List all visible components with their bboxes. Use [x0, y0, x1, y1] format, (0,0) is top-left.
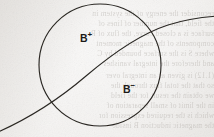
region-label-b-minus: B− [123, 82, 135, 94]
region-label-b-plus-base: B [80, 32, 88, 44]
region-label-b-minus-base: B [123, 83, 131, 95]
figure-canvas: reconsider the energy of the system in t… [0, 0, 214, 137]
region-label-b-plus: B+ [80, 31, 92, 43]
region-label-b-minus-sign: − [131, 81, 136, 90]
diagram-vector-art [0, 0, 214, 137]
region-label-b-plus-sign: + [88, 30, 93, 39]
field-line-curve [0, 16, 214, 133]
